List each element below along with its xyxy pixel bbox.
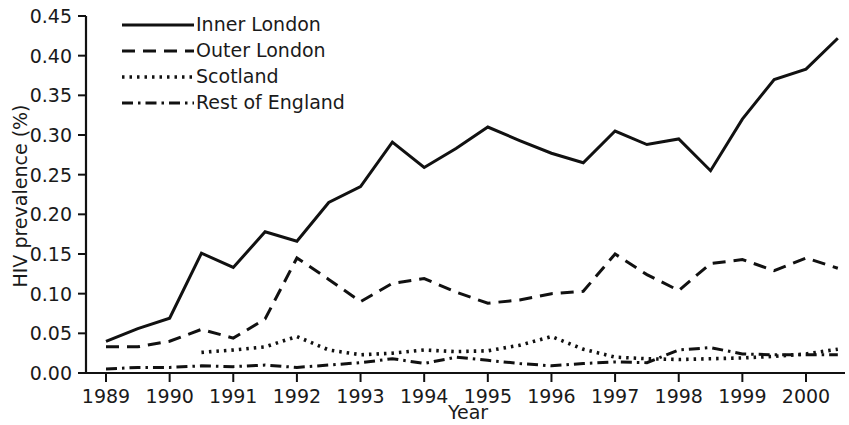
x-tick-label: 1993 (336, 385, 384, 407)
x-tick-label: 1998 (655, 385, 703, 407)
x-tick-label: 2000 (782, 385, 830, 407)
x-tick-label: 1997 (591, 385, 639, 407)
legend-label-outer-london: Outer London (196, 39, 326, 61)
y-axis-title: HIV prevalence (%) (9, 104, 31, 287)
x-tick-label: 1992 (273, 385, 321, 407)
y-axis-tick-labels: 0.000.050.100.150.200.250.300.350.400.45 (30, 5, 72, 384)
y-tick-label: 0.00 (30, 362, 72, 384)
x-tick-label: 1994 (400, 385, 448, 407)
x-axis-title: Year (447, 401, 488, 423)
y-tick-label: 0.35 (30, 84, 72, 106)
series-line-scotland (201, 337, 837, 360)
hiv-prevalence-chart: 0.000.050.100.150.200.250.300.350.400.45… (0, 0, 849, 425)
chart-canvas: 0.000.050.100.150.200.250.300.350.400.45… (0, 0, 849, 425)
x-tick-label: 1996 (527, 385, 575, 407)
legend-label-rest-of-england: Rest of England (196, 91, 345, 113)
chart-legend: Inner LondonOuter LondonScotlandRest of … (122, 13, 345, 113)
x-tick-label: 1999 (718, 385, 766, 407)
axis-tick-marks (78, 16, 806, 382)
y-tick-label: 0.30 (30, 124, 72, 146)
data-series-group (106, 38, 838, 369)
legend-label-inner-london: Inner London (196, 13, 321, 35)
x-tick-label: 1991 (209, 385, 257, 407)
series-line-rest-of-england (106, 348, 838, 369)
x-tick-label: 1989 (82, 385, 130, 407)
y-tick-label: 0.45 (30, 5, 72, 27)
y-tick-label: 0.05 (30, 322, 72, 344)
y-tick-label: 0.15 (30, 243, 72, 265)
y-tick-label: 0.20 (30, 203, 72, 225)
y-tick-label: 0.10 (30, 283, 72, 305)
y-tick-label: 0.40 (30, 45, 72, 67)
series-line-outer-london (106, 254, 838, 347)
legend-label-scotland: Scotland (196, 65, 279, 87)
y-tick-label: 0.25 (30, 164, 72, 186)
x-tick-label: 1990 (145, 385, 193, 407)
